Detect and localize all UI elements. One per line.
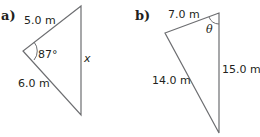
side-label-b-top: 7.0 m	[168, 9, 200, 20]
side-label-b-left: 14.0 m	[152, 75, 191, 86]
angle-label-theta: θ	[206, 24, 213, 35]
side-label-b-right: 15.0 m	[222, 64, 260, 75]
angle-label-a: 87°	[38, 49, 58, 60]
angle-arc-a	[34, 42, 37, 60]
side-label-a-top: 5.0 m	[24, 15, 56, 26]
unknown-side-label-x: x	[84, 53, 91, 64]
part-label-a: a)	[1, 9, 16, 22]
part-label-b: b)	[135, 9, 150, 22]
side-label-a-bottom: 6.0 m	[18, 78, 50, 89]
diagram-canvas: a) 5.0 m 87° x 6.0 m b) 7.0 m θ 15.0 m 1…	[0, 0, 260, 137]
